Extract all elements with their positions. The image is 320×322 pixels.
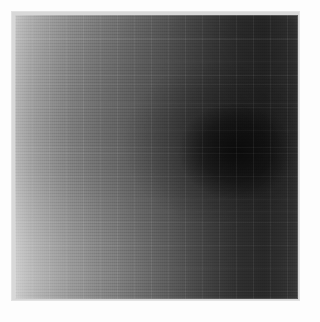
figure-caption — [14, 303, 294, 317]
heatmap-plot-area[interactable] — [15, 15, 298, 299]
grayscale-heatmap-figure — [11, 11, 300, 301]
heatmap-noise-grain — [15, 15, 298, 299]
page-root — [0, 0, 320, 322]
